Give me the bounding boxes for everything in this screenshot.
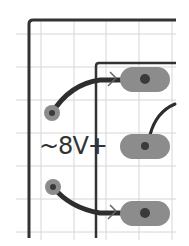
via-upper[interactable] [44, 105, 60, 121]
via-hole-icon [50, 184, 56, 190]
pad-hole-icon [140, 74, 150, 84]
pad-hole-icon [141, 142, 149, 150]
via-hole-icon [49, 110, 55, 116]
pcb-canvas [0, 0, 189, 246]
silkscreen-label: ~8V+ [39, 134, 107, 158]
pad-hole-icon [140, 208, 150, 218]
pad-top[interactable] [120, 67, 170, 92]
trace-middle-up [150, 104, 175, 135]
trace-upper [52, 80, 125, 113]
via-lower[interactable] [45, 179, 61, 195]
pad-middle[interactable] [120, 134, 170, 159]
pad-bottom[interactable] [120, 201, 170, 226]
